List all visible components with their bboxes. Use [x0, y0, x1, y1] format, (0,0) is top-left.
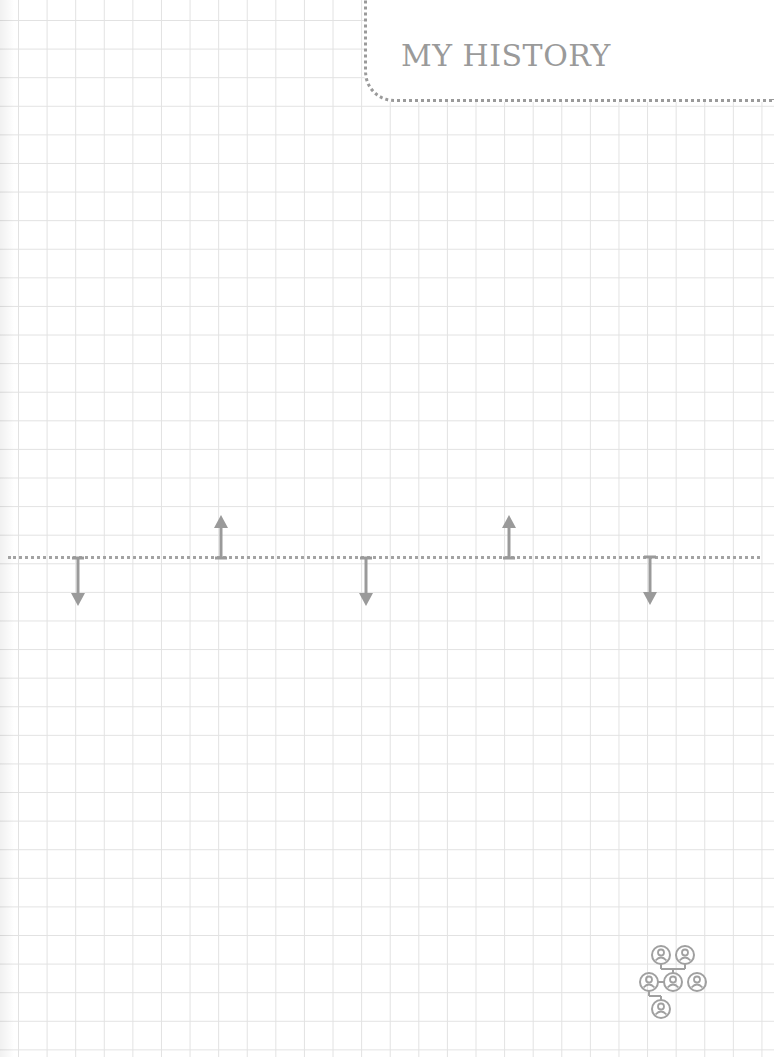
- arrow-down-icon: [68, 556, 88, 608]
- page-edge-shadow: [0, 0, 14, 1057]
- timeline-marker-up-2: [211, 513, 231, 561]
- family-tree-icon: [638, 943, 710, 1021]
- timeline-marker-up-4: [499, 513, 519, 561]
- timeline-marker-down-5: [640, 555, 660, 607]
- page-title: MY HISTORY: [401, 38, 611, 73]
- arrow-up-icon: [211, 513, 231, 561]
- arrow-down-icon: [356, 556, 376, 608]
- timeline-marker-down-1: [68, 556, 88, 608]
- arrow-up-icon: [499, 513, 519, 561]
- arrow-down-icon: [640, 555, 660, 607]
- timeline-marker-down-3: [356, 556, 376, 608]
